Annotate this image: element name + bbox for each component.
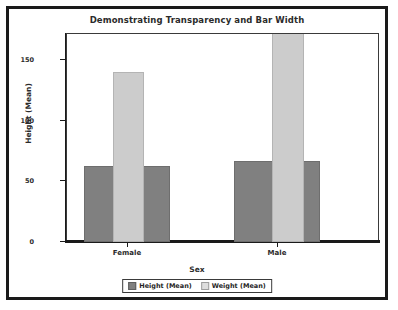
x-axis-label: Sex <box>9 265 385 274</box>
chart-figure: Demonstrating Transparency and Bar Width… <box>6 6 388 300</box>
chart-title: Demonstrating Transparency and Bar Width <box>9 15 385 25</box>
legend-swatch-icon <box>128 282 136 290</box>
y-axis-tick-label: 0 <box>0 238 34 246</box>
legend-item-weight: Weight (Mean) <box>201 282 266 290</box>
y-axis-tick-label: 50 <box>0 177 34 185</box>
chart-legend: Height (Mean) Weight (Mean) <box>122 279 272 293</box>
y-axis-label: Height (Mean) <box>24 64 33 164</box>
x-axis-tick-label: Male <box>237 249 317 257</box>
x-axis-tick-label: Female <box>87 249 167 257</box>
legend-item-height: Height (Mean) <box>128 282 192 290</box>
plot-area <box>66 33 379 242</box>
legend-label: Weight (Mean) <box>212 282 266 290</box>
x-axis-tick <box>127 243 128 247</box>
x-axis-tick <box>277 243 278 247</box>
legend-swatch-icon <box>201 282 209 290</box>
bar-weight-male <box>272 33 304 242</box>
bar-weight-female <box>113 72 144 242</box>
legend-label: Height (Mean) <box>139 282 192 290</box>
